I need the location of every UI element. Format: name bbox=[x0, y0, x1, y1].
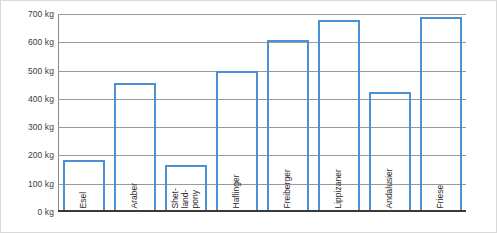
y-tick-label: 500 kg bbox=[28, 66, 54, 76]
bar-label: Freiberger bbox=[282, 169, 292, 208]
bar-label: Lippizaner bbox=[333, 169, 343, 208]
plot-area: EselAraberShet-land-ponyHaflingerFreiber… bbox=[58, 14, 466, 212]
bar[interactable]: Esel bbox=[63, 160, 105, 212]
x-axis-line bbox=[58, 210, 466, 212]
y-tick-label: 700 kg bbox=[28, 9, 54, 19]
bar[interactable]: Freiberger bbox=[267, 40, 309, 212]
y-tick-label: 400 kg bbox=[28, 94, 54, 104]
bar-series: EselAraberShet-land-ponyHaflingerFreiber… bbox=[58, 14, 466, 212]
bar-label: pony bbox=[190, 190, 200, 208]
bar[interactable]: Lippizaner bbox=[318, 20, 360, 212]
bar-label-group: Araber bbox=[116, 146, 154, 208]
y-tick-label: 200 kg bbox=[28, 150, 54, 160]
bar-label-group: Friese bbox=[422, 146, 460, 208]
bar-label-group: Shet-land-pony bbox=[167, 146, 205, 208]
y-tick-label: 100 kg bbox=[28, 179, 54, 189]
bar-label-group: Haflinger bbox=[218, 146, 256, 208]
bar-label: Esel bbox=[78, 191, 88, 208]
bar[interactable]: Shet-land-pony bbox=[165, 165, 207, 212]
bar-label: Andalusier bbox=[384, 168, 394, 208]
bar-label: Friese bbox=[435, 184, 445, 208]
bar-label-group: Andalusier bbox=[371, 146, 409, 208]
bar[interactable]: Andalusier bbox=[369, 92, 411, 212]
bar[interactable]: Friese bbox=[420, 17, 462, 212]
bar-label-group: Esel bbox=[65, 146, 103, 208]
bar-label: Shet- bbox=[170, 188, 180, 208]
y-tick-label: 600 kg bbox=[28, 37, 54, 47]
y-tick-label: 300 kg bbox=[28, 122, 54, 132]
bar-label: Haflinger bbox=[231, 174, 241, 208]
y-axis: 0 kg100 kg200 kg300 kg400 kg500 kg600 kg… bbox=[1, 1, 58, 233]
bar-label-group: Freiberger bbox=[269, 146, 307, 208]
bar-label: Araber bbox=[129, 182, 139, 208]
bar-label: land- bbox=[180, 189, 190, 208]
y-tick-label: 0 kg bbox=[38, 207, 54, 217]
bar-label-group: Lippizaner bbox=[320, 146, 358, 208]
bar-chart: 0 kg100 kg200 kg300 kg400 kg500 kg600 kg… bbox=[0, 0, 497, 233]
bar[interactable]: Haflinger bbox=[216, 71, 258, 212]
bar[interactable]: Araber bbox=[114, 83, 156, 212]
